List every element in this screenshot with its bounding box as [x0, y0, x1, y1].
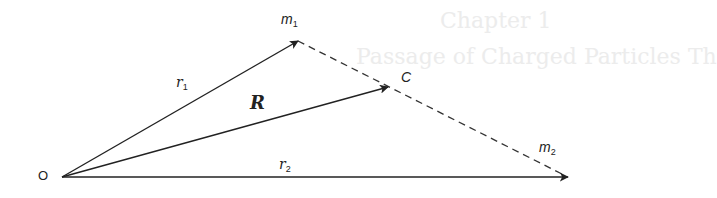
dashed-line-m1-m2 — [298, 41, 566, 176]
r2-label-main: r — [279, 156, 286, 172]
r1-label: r1 — [176, 75, 188, 92]
r2-label: r2 — [279, 157, 291, 174]
m2-label-sub: 2 — [551, 147, 556, 157]
m1-label: m1 — [281, 12, 298, 29]
c-label: C — [401, 70, 411, 84]
r1-label-sub: 1 — [183, 82, 188, 92]
m2-label-main: m — [539, 139, 551, 155]
R-label: R — [250, 94, 265, 112]
m1-label-main: m — [281, 11, 293, 27]
m1-label-sub: 1 — [293, 19, 298, 29]
m2-label: m2 — [539, 140, 556, 157]
r2-label-sub: 2 — [286, 164, 291, 174]
r1-label-main: r — [176, 74, 183, 90]
vector-R — [62, 87, 388, 177]
origin-label: O — [38, 169, 48, 182]
